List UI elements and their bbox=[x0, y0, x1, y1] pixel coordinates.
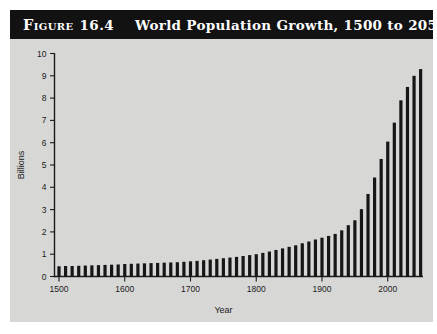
bar-1980 bbox=[373, 177, 376, 276]
y-tick-label: 2 bbox=[42, 227, 47, 237]
bar-1570 bbox=[103, 265, 106, 277]
bar-1540 bbox=[84, 266, 87, 277]
bar-2040 bbox=[412, 76, 415, 277]
bar-1930 bbox=[340, 230, 343, 276]
bar-1830 bbox=[274, 250, 277, 277]
x-tick-label: 1700 bbox=[181, 284, 200, 294]
bar-2030 bbox=[406, 87, 409, 277]
y-tick-label: 9 bbox=[42, 71, 47, 81]
population-chart: 012345678910 150016001700180019002000 Bi… bbox=[10, 39, 433, 322]
figure-label-word: Figure bbox=[23, 16, 74, 33]
bar-1640 bbox=[149, 263, 152, 276]
bar-1660 bbox=[163, 263, 166, 277]
bars bbox=[57, 69, 422, 276]
bar-1960 bbox=[360, 209, 363, 276]
y-tick-label: 10 bbox=[37, 49, 47, 59]
bar-1970 bbox=[366, 194, 369, 277]
bar-1880 bbox=[307, 241, 310, 276]
bar-2010 bbox=[393, 123, 396, 277]
bar-1550 bbox=[90, 265, 93, 276]
x-tick-label: 2000 bbox=[378, 284, 397, 294]
bar-1500 bbox=[57, 266, 60, 276]
y-tick-label: 1 bbox=[42, 249, 47, 259]
bar-1810 bbox=[261, 253, 264, 277]
y-ticks: 012345678910 bbox=[37, 49, 54, 282]
bar-1520 bbox=[71, 266, 74, 276]
bar-1580 bbox=[110, 265, 113, 277]
bar-1770 bbox=[235, 257, 238, 277]
y-tick-label: 5 bbox=[42, 160, 47, 170]
bar-1900 bbox=[320, 238, 323, 277]
bar-1690 bbox=[182, 262, 185, 277]
x-ticks: 150016001700180019002000 bbox=[50, 277, 398, 294]
bar-2050 bbox=[419, 69, 422, 276]
bar-1610 bbox=[130, 264, 133, 277]
figure-box: Figure 16.4 World Population Growth, 150… bbox=[10, 10, 433, 322]
y-tick-label: 0 bbox=[42, 272, 47, 282]
y-tick-label: 8 bbox=[42, 93, 47, 103]
figure-header: Figure 16.4 World Population Growth, 150… bbox=[10, 10, 433, 39]
bar-1720 bbox=[202, 260, 205, 276]
bar-1630 bbox=[143, 263, 146, 276]
chart-area: 012345678910 150016001700180019002000 Bi… bbox=[10, 39, 433, 322]
bar-1700 bbox=[189, 261, 192, 276]
bar-2000 bbox=[386, 142, 389, 277]
bar-1680 bbox=[176, 262, 179, 276]
bar-1800 bbox=[255, 254, 258, 276]
bar-1650 bbox=[156, 263, 159, 277]
bar-1890 bbox=[314, 239, 317, 276]
figure-title: World Population Growth, 1500 to 2050 bbox=[135, 17, 437, 33]
bar-1790 bbox=[248, 255, 251, 276]
x-tick-label: 1500 bbox=[50, 284, 69, 294]
bar-1990 bbox=[380, 159, 383, 277]
figure-label-number: 16.4 bbox=[80, 17, 114, 33]
bar-1620 bbox=[136, 264, 139, 277]
bar-1560 bbox=[97, 265, 100, 276]
bar-1780 bbox=[242, 256, 245, 277]
bar-1600 bbox=[123, 264, 126, 276]
bar-1590 bbox=[117, 264, 120, 276]
bar-2020 bbox=[399, 100, 402, 276]
bar-1760 bbox=[228, 258, 231, 277]
bar-1510 bbox=[64, 266, 67, 276]
bar-1950 bbox=[353, 220, 356, 276]
y-tick-label: 6 bbox=[42, 138, 47, 148]
bar-1750 bbox=[222, 258, 225, 276]
x-axis-title: Year bbox=[214, 305, 232, 315]
bar-1910 bbox=[327, 236, 330, 277]
y-axis-title: Billions bbox=[16, 150, 26, 179]
y-tick-label: 7 bbox=[42, 115, 47, 125]
bar-1850 bbox=[288, 247, 291, 277]
bar-1670 bbox=[169, 262, 172, 276]
y-tick-label: 3 bbox=[42, 205, 47, 215]
bar-1730 bbox=[209, 260, 212, 277]
x-tick-label: 1600 bbox=[115, 284, 134, 294]
x-tick-label: 1900 bbox=[313, 284, 332, 294]
bar-1860 bbox=[294, 245, 297, 276]
bar-1840 bbox=[281, 248, 284, 276]
bar-1870 bbox=[301, 243, 304, 276]
bar-1530 bbox=[77, 266, 80, 277]
bar-1920 bbox=[334, 234, 337, 277]
bar-1710 bbox=[195, 261, 198, 277]
bar-1740 bbox=[215, 259, 218, 277]
bar-1820 bbox=[268, 252, 271, 277]
y-tick-label: 4 bbox=[42, 182, 47, 192]
bar-1940 bbox=[347, 225, 350, 276]
x-tick-label: 1800 bbox=[247, 284, 266, 294]
